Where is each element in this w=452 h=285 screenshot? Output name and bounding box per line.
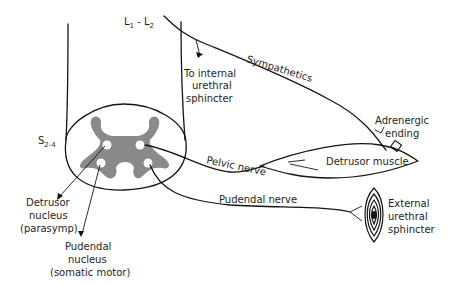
detrusor-nucleus-label-2: nucleus bbox=[29, 210, 68, 221]
spinal-cord-column bbox=[66, 22, 185, 140]
arrow-head-icon bbox=[78, 231, 84, 237]
sacral-label: S2-4 bbox=[38, 135, 56, 149]
detrusor-nucleus-label-1: Detrusor bbox=[26, 197, 71, 208]
sympathetics-label: Sympathetics bbox=[245, 53, 314, 83]
pudendal-nucleus-label-3: (somatic motor) bbox=[50, 267, 130, 278]
detrusor-nucleus-dot bbox=[103, 141, 112, 150]
pudendal-nucleus-label-1: Pudendal bbox=[65, 241, 111, 252]
pudendal-nerve-label: Pudendal nerve bbox=[219, 194, 297, 205]
bladder-innervation-diagram: L1 - L2 S2-4 Sympathetics To internal ur… bbox=[0, 0, 452, 285]
pudendal-nucleus-dot bbox=[97, 159, 106, 168]
detrusor-nucleus-label-3: (parasymp) bbox=[20, 223, 78, 234]
sympathetic-dot bbox=[136, 141, 145, 150]
adrenergic-label-2: ending bbox=[385, 128, 419, 139]
adrenergic-label-1: Adrenergic bbox=[375, 115, 429, 126]
external-sphincter-label-1: External bbox=[388, 198, 430, 209]
pelvic-nerve-label: Pelvic nerve bbox=[206, 154, 268, 177]
external-sphincter-label-3: sphincter bbox=[388, 224, 436, 235]
internal-sphincter-label-1: To internal bbox=[183, 68, 236, 79]
external-sphincter-label-2: urethral bbox=[388, 211, 428, 222]
pudendal-nucleus-label-2: nucleus bbox=[68, 254, 107, 265]
detrusor-muscle-label: Detrusor muscle bbox=[326, 156, 409, 167]
lumbar-label: L1 - L2 bbox=[124, 16, 154, 30]
internal-sphincter-label-3: sphincter bbox=[186, 93, 234, 104]
internal-sphincter-label-2: urethral bbox=[192, 80, 232, 91]
